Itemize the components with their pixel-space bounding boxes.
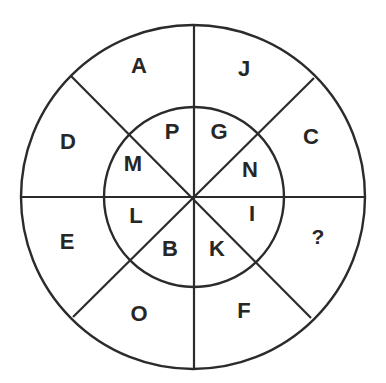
inner-segment-label: P: [165, 119, 180, 144]
outer-segment-label: J: [238, 56, 250, 81]
outer-segment-label: O: [130, 301, 147, 326]
outer-segment-label: F: [237, 298, 250, 323]
inner-segment-label: M: [124, 151, 142, 176]
outer-segment-label: E: [60, 229, 75, 254]
outer-segment-label: C: [303, 124, 319, 149]
inner-segment-label: N: [242, 157, 258, 182]
inner-segment-label: L: [129, 203, 142, 228]
inner-segment-label: B: [162, 236, 178, 261]
inner-segment-label: K: [209, 236, 225, 261]
outer-segment-label: D: [60, 129, 76, 154]
missing-value-question-mark: ?: [312, 225, 325, 248]
inner-segment-label: I: [249, 201, 255, 226]
inner-segment-label: G: [210, 119, 227, 144]
outer-segment-label: A: [131, 53, 147, 78]
letter-wheel-diagram: A J C ? F O E D P G N I K B L M: [0, 0, 386, 383]
